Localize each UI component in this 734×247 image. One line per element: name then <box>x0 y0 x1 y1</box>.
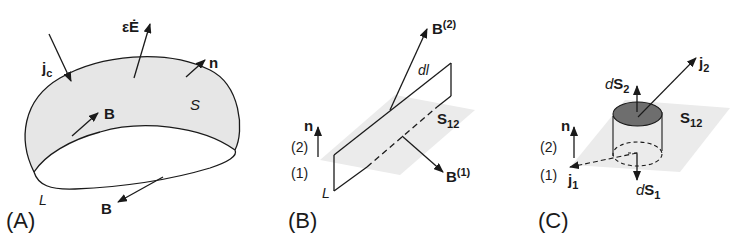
panel-b: B(2) dl S12 B(1) n (2) (1) L (B) <box>288 18 475 233</box>
panel-a: jc εĖ n S B B L (A) <box>6 18 240 233</box>
label-n-c: n <box>561 117 570 134</box>
surface-s <box>25 57 240 172</box>
interface-plane <box>320 95 475 175</box>
label-ds1: dS1 <box>636 181 660 201</box>
panel-label-c: (C) <box>538 208 569 233</box>
loop-bottom-edge-visible <box>334 167 367 191</box>
diagram-canvas: jc εĖ n S B B L (A) B(2) dl S12 B(1) n (… <box>0 0 734 247</box>
label-ds2: dS2 <box>605 75 629 95</box>
current-arrow <box>49 34 71 81</box>
label-j2: j2 <box>698 54 709 74</box>
label-s: S <box>190 96 200 113</box>
label-l-b: L <box>322 185 330 201</box>
label-n: n <box>209 54 218 71</box>
label-dl: dl <box>418 62 430 78</box>
field-arrow-bottom <box>118 177 163 202</box>
label-j1: j1 <box>567 171 578 191</box>
label-jc: jc <box>41 59 52 79</box>
label-l: L <box>39 192 47 208</box>
label-medium-1-b: (1) <box>291 165 308 181</box>
panel-c: j2 dS2 dS1 S12 j1 n (2) (1) (C) <box>538 54 730 233</box>
label-b-top: B <box>104 105 115 122</box>
loop-l-lower <box>34 150 236 189</box>
label-eps-edot: εĖ <box>122 18 139 35</box>
label-medium-1-c: (1) <box>540 167 557 183</box>
label-b1: B(1) <box>446 166 471 185</box>
label-medium-2-b: (2) <box>291 139 308 155</box>
label-b2: B(2) <box>432 18 457 37</box>
panel-label-a: (A) <box>6 208 35 233</box>
label-medium-2-c: (2) <box>540 139 557 155</box>
label-b-bottom: B <box>101 200 112 217</box>
panel-label-b: (B) <box>288 208 317 233</box>
label-n-b: n <box>304 117 313 134</box>
